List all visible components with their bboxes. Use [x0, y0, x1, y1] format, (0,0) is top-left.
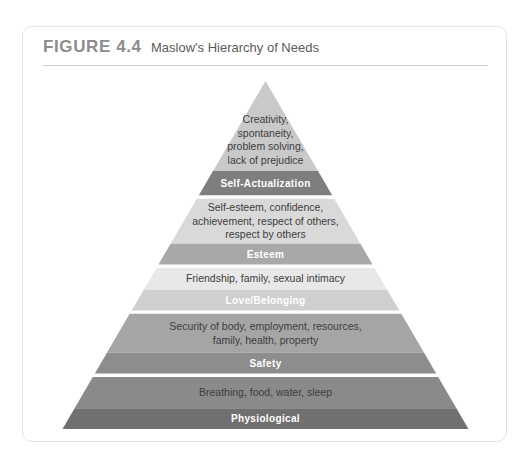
tier-label-text-physiological: Physiological: [231, 413, 300, 424]
tier-label-text-self-actualization: Self-Actualization: [220, 178, 310, 189]
header-divider: [43, 65, 488, 66]
pyramid-svg: Creativity,spontaneity,problem solving,l…: [23, 71, 508, 441]
tier-label-text-safety: Safety: [249, 358, 281, 369]
tier-label-text-esteem: Esteem: [247, 249, 285, 260]
pyramid-diagram: Creativity,spontaneity,problem solving,l…: [23, 71, 508, 441]
tier-content-text-self-actualization: Creativity,spontaneity,problem solving,l…: [227, 113, 303, 166]
figure-title: Maslow's Hierarchy of Needs: [151, 40, 319, 55]
figure-header: FIGURE 4.4 Maslow's Hierarchy of Needs: [23, 27, 506, 71]
pyramid-tier-esteem: Self-esteem, confidence,achievement, res…: [158, 199, 372, 265]
figure-number-label: FIGURE 4.4: [43, 37, 142, 57]
figure-card: FIGURE 4.4 Maslow's Hierarchy of Needs C…: [22, 26, 507, 442]
pyramid-tier-love-belonging: Friendship, family, sexual intimacyLove/…: [132, 268, 400, 310]
pyramid-tier-self-actualization: Creativity,spontaneity,problem solving,l…: [199, 81, 332, 195]
pyramid-tier-safety: Security of body, employment, resources,…: [95, 314, 436, 374]
tier-label-text-love-belonging: Love/Belonging: [226, 295, 306, 306]
tier-content-text-physiological: Breathing, food, water, sleep: [199, 386, 332, 398]
tier-content-text-love-belonging: Friendship, family, sexual intimacy: [186, 272, 346, 284]
pyramid-tier-physiological: Breathing, food, water, sleepPhysiologic…: [63, 377, 469, 429]
